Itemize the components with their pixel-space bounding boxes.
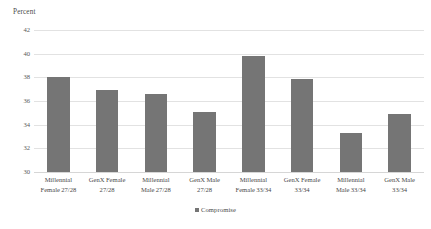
x-axis-categories: MillennialFemale 27/28GenX Female27/28Mi…	[34, 175, 424, 203]
bar	[96, 90, 118, 172]
bar	[242, 56, 264, 172]
gridline	[34, 172, 424, 173]
x-tick-label-line: 33/34	[375, 185, 424, 195]
x-tick-label-line: Female 33/34	[229, 185, 278, 195]
chart-legend: Compromise	[0, 206, 431, 213]
bar	[291, 79, 313, 172]
bar	[47, 77, 69, 172]
x-tick-label: MillennialMale 33/34	[327, 175, 376, 194]
x-tick-label-line: Female 27/28	[34, 185, 83, 195]
legend-swatch-icon	[195, 208, 199, 212]
x-tick-label: MillennialFemale 27/28	[34, 175, 83, 194]
x-tick-label-line: GenX Male	[375, 175, 424, 185]
x-tick-label-line: GenX Male	[180, 175, 229, 185]
x-tick-label: GenX Male27/28	[180, 175, 229, 194]
x-tick-label: MillennialFemale 33/34	[229, 175, 278, 194]
x-tick-label-line: Millennial	[132, 175, 181, 185]
bar	[388, 114, 410, 172]
y-tick-label: 32	[23, 145, 30, 152]
x-tick-label-line: 27/28	[180, 185, 229, 195]
y-axis-ticks: 30323436384042	[0, 30, 34, 172]
bar	[340, 133, 362, 172]
x-tick-label: GenX Male33/34	[375, 175, 424, 194]
x-tick-label-line: Millennial	[229, 175, 278, 185]
x-tick-label-line: Male 27/28	[132, 185, 181, 195]
bars-layer	[34, 30, 424, 172]
x-tick-label-line: Millennial	[34, 175, 83, 185]
x-tick-label-line: GenX Female	[83, 175, 132, 185]
x-tick-label: GenX Female27/28	[83, 175, 132, 194]
y-tick-label: 36	[23, 98, 30, 105]
y-tick-label: 42	[23, 27, 30, 34]
x-tick-label-line: Millennial	[327, 175, 376, 185]
x-tick-label-line: GenX Female	[278, 175, 327, 185]
y-axis-title: Percent	[13, 8, 36, 16]
x-tick-label-line: Male 33/34	[327, 185, 376, 195]
y-tick-label: 38	[23, 74, 30, 81]
legend-label: Compromise	[201, 206, 236, 213]
x-tick-label-line: 27/28	[83, 185, 132, 195]
y-tick-label: 34	[23, 121, 30, 128]
x-tick-label: MillennialMale 27/28	[132, 175, 181, 194]
bar-chart: Percent 30323436384042 MillennialFemale …	[0, 0, 431, 229]
y-tick-label: 30	[23, 169, 30, 176]
bar	[145, 94, 167, 172]
x-tick-label: GenX Female33/34	[278, 175, 327, 194]
y-tick-label: 40	[23, 50, 30, 57]
bar	[193, 112, 215, 172]
x-tick-label-line: 33/34	[278, 185, 327, 195]
